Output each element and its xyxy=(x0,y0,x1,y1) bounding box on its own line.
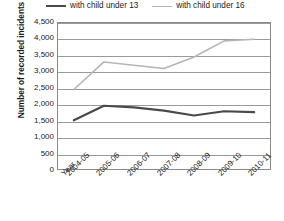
legend-item-with-child-under-16: with child under 16 xyxy=(152,2,244,10)
y-axis-tick-labels: 05001,0001,5002,0002,5003,0003,5004,0004… xyxy=(14,22,54,170)
legend-item-with-child-under-13: with child under 13 xyxy=(46,2,138,10)
chart-legend: with child under 13 with child under 16 xyxy=(46,2,245,10)
x-axis-tick-labels: Year2004-052005-062006-072007-082008-092… xyxy=(0,172,284,221)
y-axis-tick-label: 2,500 xyxy=(34,84,54,92)
y-axis-tick-label: 4,000 xyxy=(34,34,54,42)
y-axis-tick-label: 3,500 xyxy=(34,51,54,59)
y-axis-tick-label: 2,000 xyxy=(34,100,54,108)
series-line-1 xyxy=(74,106,254,121)
legend-label-series-1: with child under 13 xyxy=(70,2,138,10)
y-axis-tick-label: 1,500 xyxy=(34,117,54,125)
line-chart: with child under 13 with child under 16 … xyxy=(0,0,284,221)
y-axis-tick-label: 4,500 xyxy=(34,18,54,26)
series-lines xyxy=(58,23,270,169)
legend-swatch-series-1 xyxy=(46,5,66,7)
legend-swatch-series-2 xyxy=(152,6,172,7)
y-axis-tick-label: 1,000 xyxy=(34,133,54,141)
y-axis-tick-label: 3,000 xyxy=(34,67,54,75)
y-axis-tick-label: 500 xyxy=(41,150,54,158)
legend-label-series-2: with child under 16 xyxy=(176,2,244,10)
plot-area xyxy=(57,22,271,170)
series-line-2 xyxy=(74,39,254,89)
